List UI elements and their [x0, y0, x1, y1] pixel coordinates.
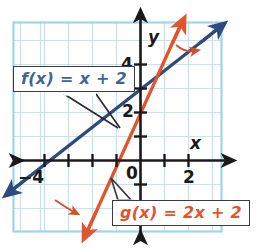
graph-figure: 4 2 0 −4 2 x y f(x) = x + 2 g(x) = 2x + …	[0, 0, 263, 250]
x-axis-label: x	[190, 133, 201, 153]
x-tick-label-2: 2	[183, 167, 195, 187]
origin-label: 0	[126, 163, 138, 183]
y-axis-label: y	[148, 27, 159, 47]
y-tick-label-2: 2	[122, 101, 134, 121]
g-function-callout: g(x) = 2x + 2	[112, 200, 250, 226]
f-function-callout: f(x) = x + 2	[13, 66, 135, 92]
x-tick-label-neg4: −4	[18, 167, 44, 187]
